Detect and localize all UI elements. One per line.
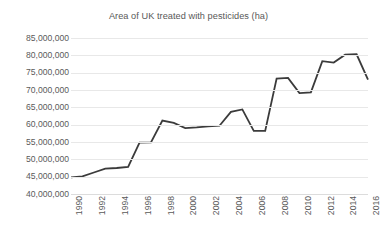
y-axis-tick-label: 65,000,000 [3, 103, 69, 112]
gridline [71, 177, 368, 178]
gridline [71, 73, 368, 74]
x-axis-tick-label: 1990 [75, 196, 84, 215]
y-axis-tick-label: 70,000,000 [3, 86, 69, 95]
gridline [71, 125, 368, 126]
x-axis-tick-label: 2002 [212, 196, 221, 215]
x-axis-tick-label: 2006 [258, 196, 267, 215]
gridline [71, 107, 368, 108]
x-axis-tick-label: 1996 [144, 196, 153, 215]
plot-area [71, 38, 368, 194]
chart-title: Area of UK treated with pesticides (ha) [0, 11, 377, 21]
gridline [71, 90, 368, 91]
y-axis-tick-label: 60,000,000 [3, 120, 69, 129]
y-axis-tick-label: 85,000,000 [3, 34, 69, 43]
x-axis-tick-label: 1992 [98, 196, 107, 215]
gridline [71, 142, 368, 143]
y-axis-tick-label: 45,000,000 [3, 172, 69, 181]
y-axis-tick-label: 80,000,000 [3, 51, 69, 60]
x-axis-tick-label: 1998 [167, 196, 176, 215]
y-axis-tick-label: 75,000,000 [3, 68, 69, 77]
y-axis: 85,000,00080,000,00075,000,00070,000,000… [0, 38, 69, 194]
x-axis-tick-label: 2000 [189, 196, 198, 215]
x-axis-tick-label: 2004 [235, 196, 244, 215]
x-axis-tick-label: 1994 [121, 196, 130, 215]
x-axis-tick-label: 2010 [304, 196, 313, 215]
x-axis: 1990199219941996199820002002200420062008… [71, 196, 368, 246]
x-axis-tick-label: 2012 [327, 196, 336, 215]
data-series-line [71, 38, 368, 194]
y-axis-tick-label: 40,000,000 [3, 190, 69, 199]
gridline [71, 38, 368, 39]
y-axis-tick-label: 55,000,000 [3, 138, 69, 147]
gridline [71, 55, 368, 56]
y-axis-tick-label: 50,000,000 [3, 155, 69, 164]
x-axis-tick-label: 2016 [372, 196, 381, 215]
gridline [71, 194, 368, 195]
gridline [71, 159, 368, 160]
x-axis-tick-label: 2014 [349, 196, 358, 215]
x-axis-tick-label: 2008 [281, 196, 290, 215]
